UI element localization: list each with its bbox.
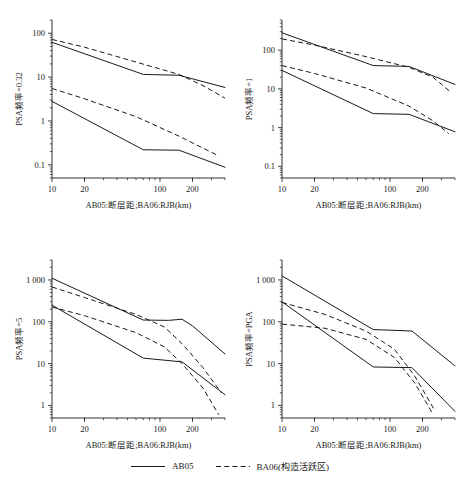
y-tick-label: 1 000 [26,275,45,285]
y-tick-label: 10 [267,84,276,94]
x-axis-label: AB05:断层距;BA06:RJB(km) [316,200,422,210]
x-axis-label: AB05:断层距;BA06:RJB(km) [316,440,422,450]
x-axis-label: AB05:断层距;BA06:RJB(km) [86,200,192,210]
legend-entry-ba06: BA06(构造活跃区) [216,460,330,473]
legend-swatch-solid [131,462,165,471]
x-tick-label: 100 [384,184,397,194]
data-series-line [52,287,221,393]
y-tick-label: 1 [271,123,275,133]
legend-entry-ab05: AB05 [131,461,194,471]
x-tick-label: 200 [186,184,199,194]
axis-spines [52,20,225,178]
y-axis-label: PSA频率=5 [14,318,24,361]
data-series-line [52,305,225,395]
x-tick-label: 10 [48,184,57,194]
y-tick-label: 1 [271,400,275,410]
x-tick-label: 200 [416,184,429,194]
figure-legend: AB05 BA06(构造活跃区) [0,452,460,480]
y-tick-label: 100 [32,317,45,327]
data-series-line [282,70,455,131]
chart-panel-psa-5: 1101001 0001020100200AB05:断层距;BA06:RJB(k… [0,240,230,465]
data-series-line [52,39,225,98]
x-tick-label: 10 [278,424,287,434]
chart-panel-psa-pga: 1101001 0001020100200AB05:断层距;BA06:RJB(k… [230,240,460,465]
plot-svg-0: 0.11101001020100200AB05:断层距;BA06:RJB(km)… [0,0,230,225]
x-tick-label: 20 [80,424,89,434]
y-tick-label: 1 [41,116,45,126]
legend-label-ba06: BA06(构造活跃区) [257,460,330,473]
data-series-line [282,66,449,134]
x-tick-label: 200 [186,424,199,434]
y-tick-label: 100 [262,317,275,327]
x-tick-label: 100 [154,424,167,434]
x-tick-label: 100 [154,184,167,194]
data-series-line [52,278,225,354]
x-tick-label: 20 [80,184,89,194]
data-series-line [52,42,225,87]
y-tick-label: 100 [32,28,45,38]
data-series-line [282,324,433,414]
y-tick-label: 1 [41,400,45,410]
axis-spines [282,260,455,418]
plot-svg-2: 1101001 0001020100200AB05:断层距;BA06:RJB(k… [0,240,230,465]
y-tick-label: 0.1 [34,160,45,170]
x-tick-label: 20 [310,424,319,434]
y-tick-label: 10 [37,72,46,82]
y-axis-label: PSA频率=0.32 [14,72,24,125]
x-tick-label: 100 [384,424,397,434]
x-axis-label: AB05:断层距;BA06:RJB(km) [86,440,192,450]
axis-spines [52,260,225,418]
data-series-line [52,307,219,415]
y-tick-label: 1 000 [256,275,275,285]
data-series-line [282,39,451,93]
x-tick-label: 10 [48,424,57,434]
y-axis-label: PSA频率=PGA [244,310,254,366]
legend-label-ab05: AB05 [172,461,194,471]
plot-svg-3: 1101001 0001020100200AB05:断层距;BA06:RJB(k… [230,240,460,465]
data-series-line [52,101,225,167]
figure-panel-grid: 0.11101001020100200AB05:断层距;BA06:RJB(km)… [0,0,460,480]
x-tick-label: 20 [310,184,319,194]
y-axis-label: PSA频率=1 [244,78,254,121]
legend-swatch-dashed [216,462,250,471]
chart-panel-psa-0-32: 0.11101001020100200AB05:断层距;BA06:RJB(km)… [0,0,230,225]
data-series-line [282,33,455,85]
y-tick-label: 10 [37,359,46,369]
x-tick-label: 10 [278,184,287,194]
y-tick-label: 10 [267,359,276,369]
y-tick-label: 0.1 [264,161,275,171]
x-tick-label: 200 [416,424,429,434]
chart-panel-psa-1: 0.11101001020100200AB05:断层距;BA06:RJB(km)… [230,0,460,225]
y-tick-label: 100 [262,45,275,55]
plot-svg-1: 0.11101001020100200AB05:断层距;BA06:RJB(km)… [230,0,460,225]
data-series-line [282,302,455,412]
